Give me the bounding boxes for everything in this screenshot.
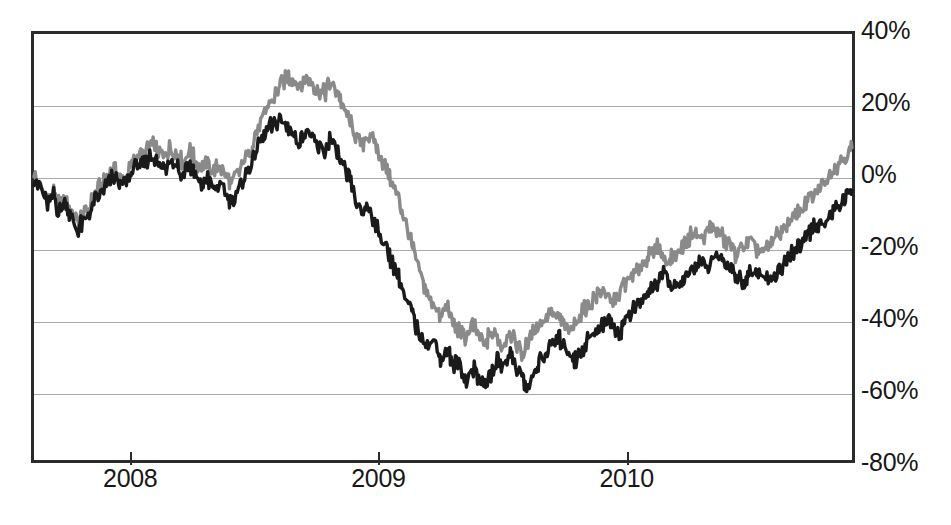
y-axis-tick-label: -20% bbox=[861, 234, 918, 259]
y-axis-tick-label: -60% bbox=[861, 378, 918, 403]
line-black-series bbox=[34, 114, 852, 391]
cropped-title-remnant bbox=[30, 0, 370, 3]
y-axis-tick-label: 0% bbox=[861, 162, 897, 187]
x-axis-tick-label: 2009 bbox=[351, 466, 405, 491]
y-axis-tick-label: -80% bbox=[861, 450, 918, 475]
series-layer bbox=[34, 34, 852, 460]
y-axis-tick-label: 20% bbox=[861, 90, 910, 115]
y-axis-tick-label: -40% bbox=[861, 306, 918, 331]
x-axis-tick-label: 2008 bbox=[103, 466, 157, 491]
y-axis-tick-label: 40% bbox=[861, 18, 910, 43]
line-gray-series bbox=[34, 71, 852, 361]
plot-area bbox=[31, 31, 855, 463]
chart-figure: 40%20%0%-20%-40%-60%-80% 200820092010 bbox=[0, 0, 951, 525]
x-axis-tick-label: 2010 bbox=[599, 466, 653, 491]
